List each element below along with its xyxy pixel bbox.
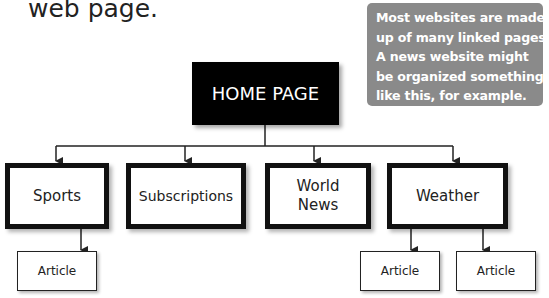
weather-node: Weather — [387, 163, 508, 229]
sports-article-node: Article — [17, 251, 97, 291]
node-label: Sports — [33, 187, 81, 206]
node-label: Subscriptions — [139, 187, 233, 206]
sports-node: Sports — [5, 163, 109, 229]
article-label: Article — [477, 264, 516, 278]
subscriptions-node: Subscriptions — [126, 163, 246, 229]
weather-article-node-1: Article — [360, 251, 440, 291]
node-label: Weather — [416, 187, 479, 206]
home-page-node: HOME PAGE — [192, 62, 339, 125]
node-label-line2: News — [298, 196, 339, 215]
article-label: Article — [381, 264, 420, 278]
article-label: Article — [38, 264, 77, 278]
world-news-node: World News — [265, 163, 371, 229]
home-page-label: HOME PAGE — [212, 83, 319, 104]
node-label-line1: World — [297, 177, 340, 196]
weather-article-node-2: Article — [456, 251, 536, 291]
